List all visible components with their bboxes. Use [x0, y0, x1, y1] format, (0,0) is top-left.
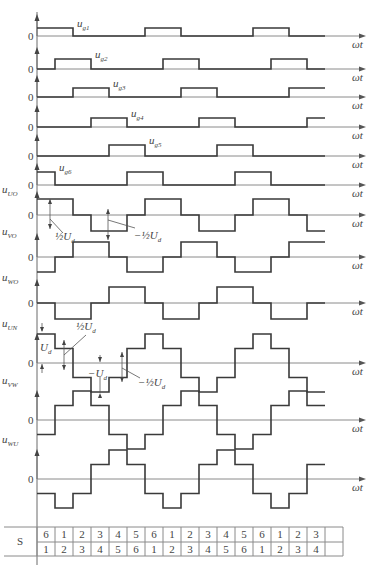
ud-label: Ud — [40, 341, 52, 356]
dimension-arrow-icon — [40, 327, 44, 332]
table-cell-lower: 2 — [61, 543, 67, 555]
table-cell-lower: 5 — [223, 543, 229, 555]
half-ud-label: ½Ud — [55, 230, 75, 245]
dimension-arrow-icon — [40, 364, 44, 369]
signal-label: ug2 — [95, 48, 108, 63]
table-cell-upper: 6 — [43, 528, 49, 540]
table-cell-lower: 1 — [259, 543, 265, 555]
signal-label: uWU — [2, 433, 19, 448]
omega-t-label: ωt — [352, 217, 364, 229]
gate-pulse-train — [37, 145, 325, 156]
gate-signal-g4: ωt0ug4 — [28, 105, 366, 141]
inverter-waveform-diagram: ωt0ug1ωt0ug2ωt0ug3ωt0ug4ωt0ug5ωt0ug6 ωt0… — [0, 0, 372, 565]
signal-label: ug5 — [149, 134, 162, 149]
dimension-arrow-icon — [98, 393, 102, 398]
signal-label: uVO — [2, 225, 17, 240]
table-cell-lower: 3 — [79, 543, 85, 555]
arrow-up-icon — [35, 390, 40, 397]
arrow-up-icon — [35, 14, 40, 21]
table-cell-upper: 5 — [241, 528, 247, 540]
line-voltage-plots: ωt0uUNωt0uVWωt0uWU — [2, 317, 366, 508]
table-cell-upper: 4 — [223, 528, 229, 540]
omega-t-label: ωt — [352, 365, 364, 377]
table-cell-upper: 3 — [313, 528, 319, 540]
signal-label: ug6 — [59, 161, 72, 176]
table-cell-upper: 2 — [295, 528, 301, 540]
gate-signal-plots: ωt0ug1ωt0ug2ωt0ug3ωt0ug4ωt0ug5ωt0ug6 — [28, 12, 366, 565]
arrow-up-icon — [35, 105, 40, 112]
phase-voltage-plots: ωt0uUOωt0uVOωt0uWO — [2, 183, 366, 319]
omega-t-label: ωt — [352, 99, 364, 111]
gate-signal-g6: ωt0ug6 — [28, 161, 366, 199]
signal-label: ug4 — [131, 107, 144, 122]
line-voltage-VW: ωt0uVW — [2, 374, 366, 449]
dimension-arrow-icon — [62, 365, 66, 370]
table-cell-lower: 5 — [115, 543, 121, 555]
arrow-up-icon — [35, 449, 40, 456]
table-cell-lower: 2 — [277, 543, 283, 555]
zero-label: 0 — [28, 414, 34, 426]
omega-t-label: ωt — [352, 422, 364, 434]
dimension-arrow-icon — [98, 357, 102, 362]
table-cell-lower: 6 — [133, 543, 139, 555]
dimension-arrow-icon — [120, 352, 124, 357]
table-cell-upper: 3 — [205, 528, 211, 540]
table-cell-lower: 4 — [313, 543, 319, 555]
phase-voltage-UO: ωt0uUO — [2, 183, 366, 231]
table-cell-upper: 3 — [97, 528, 103, 540]
table-cell-lower: 1 — [151, 543, 157, 555]
zero-label: 0 — [28, 297, 34, 309]
gate-pulse-train — [37, 59, 325, 69]
omega-t-label: ωt — [352, 71, 364, 83]
table-cell-lower: 3 — [187, 543, 193, 555]
table-cell-lower: 3 — [295, 543, 301, 555]
arrow-up-icon — [35, 75, 40, 82]
table-cell-upper: 1 — [169, 528, 175, 540]
amplitude-annotations: ½Ud−½UdUd½Ud−Ud−½Ud — [40, 199, 166, 398]
half-ud-label: −½Ud — [138, 376, 166, 391]
omega-t-label: ωt — [352, 259, 364, 271]
zero-label: 0 — [28, 63, 34, 75]
gate-pulse-train — [37, 172, 325, 185]
zero-label: 0 — [28, 91, 34, 103]
signal-label: uUO — [2, 183, 18, 198]
zero-label: 0 — [28, 30, 34, 42]
omega-t-label: ωt — [352, 187, 364, 199]
zero-label: 0 — [28, 473, 34, 485]
dimension-arrow-icon — [106, 235, 110, 240]
table-cell-lower: 2 — [169, 543, 175, 555]
table-cell-lower: 1 — [43, 543, 49, 555]
zero-label: 0 — [28, 357, 34, 369]
omega-t-label: ωt — [352, 129, 364, 141]
table-cell-upper: 6 — [151, 528, 157, 540]
gate-signal-g3: ωt0ug3 — [28, 75, 366, 111]
arrow-up-icon — [35, 47, 40, 54]
arrow-up-icon — [35, 191, 40, 198]
gate-pulse-train — [37, 28, 325, 36]
zero-label: 0 — [28, 251, 34, 263]
phase-voltage-WO: ωt0uWO — [2, 271, 366, 319]
line-voltage-WU: ωt0uWU — [2, 433, 366, 508]
arrow-up-icon — [35, 134, 40, 141]
table-cell-upper: 2 — [79, 528, 85, 540]
signal-label: uWO — [2, 271, 18, 286]
table-cell-upper: 1 — [277, 528, 283, 540]
zero-label: 0 — [28, 150, 34, 162]
zero-label: 0 — [28, 121, 34, 133]
gate-pulse-train — [37, 88, 325, 97]
table-cell-upper: 5 — [133, 528, 139, 540]
table-cell-lower: 4 — [97, 543, 103, 555]
table-cell-upper: 1 — [61, 528, 67, 540]
dimension-arrow-icon — [48, 224, 52, 229]
half-ud-label: −½Ud — [134, 229, 162, 244]
table-cell-lower: 6 — [241, 543, 247, 555]
signal-label: ug3 — [113, 77, 126, 92]
gate-signal-g2: ωt0ug2 — [28, 47, 366, 83]
half-ud-label: ½Ud — [76, 320, 96, 335]
arrow-up-icon — [35, 233, 40, 240]
arrow-up-icon — [35, 279, 40, 286]
table-cell-lower: 4 — [205, 543, 211, 555]
omega-t-label: ωt — [352, 158, 364, 170]
dimension-arrow-icon — [106, 209, 110, 214]
omega-t-label: ωt — [352, 305, 364, 317]
